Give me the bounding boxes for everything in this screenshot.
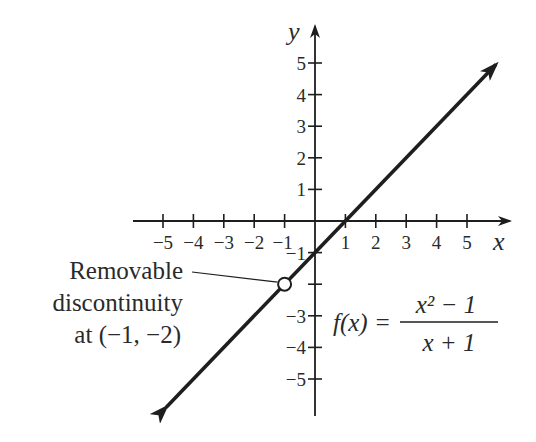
- removable-discontinuity-point: [278, 278, 291, 291]
- y-tick-label: 3: [297, 116, 307, 137]
- x-axis-ticks: −5−4−3−2−112345: [153, 214, 472, 253]
- formula-lhs: f(x) =: [333, 309, 391, 337]
- annotation-line-3: at (−1, −2): [74, 321, 181, 349]
- formula-numerator: x² − 1: [415, 291, 476, 318]
- annotation-line-1: Removable: [69, 257, 183, 284]
- y-tick-label: −5: [286, 369, 306, 390]
- y-tick-label: −1: [286, 243, 306, 264]
- annotation-line-2: discontinuity: [52, 289, 183, 316]
- function-graph: −5−4−3−2−112345 54321−1−3−4−5 x y Remova…: [0, 0, 536, 442]
- x-tick-label: −5: [153, 232, 173, 253]
- x-tick-label: −4: [183, 232, 204, 253]
- y-tick-label: −4: [286, 337, 307, 358]
- x-tick-label: 2: [371, 232, 381, 253]
- function-formula: f(x) = x² − 1 x + 1: [333, 291, 498, 356]
- y-tick-label: 2: [297, 148, 307, 169]
- y-tick-label: 5: [297, 53, 307, 74]
- y-tick-label: 4: [297, 85, 307, 106]
- x-tick-label: 3: [401, 232, 411, 253]
- x-tick-label: −3: [214, 232, 234, 253]
- y-tick-label: −3: [286, 306, 306, 327]
- formula-denominator: x + 1: [422, 329, 476, 356]
- x-tick-label: 5: [462, 232, 472, 253]
- x-tick-label: −2: [244, 232, 264, 253]
- y-tick-label: 1: [297, 179, 307, 200]
- x-tick-label: 1: [341, 232, 351, 253]
- x-axis-label: x: [492, 227, 505, 256]
- x-tick-label: 4: [432, 232, 442, 253]
- y-axis-label: y: [285, 17, 300, 46]
- annotation-leader-line: [192, 272, 278, 282]
